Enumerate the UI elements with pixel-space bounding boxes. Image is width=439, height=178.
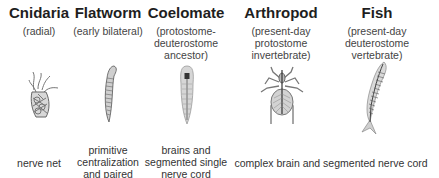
flatworm-icon [100, 64, 120, 126]
subtitle-line: (protostome- [154, 25, 218, 37]
subtitle-flatworm: (early bilateral) [73, 25, 142, 37]
arthropod-icon [259, 66, 305, 126]
fish-icon [350, 60, 392, 136]
label-line: nerve cord [145, 168, 227, 178]
subtitle-line: ancestor) [154, 49, 218, 61]
title-cnidaria: Cnidaria [9, 4, 69, 21]
subtitle-cnidaria: (radial) [23, 25, 56, 37]
label-line: and paired [77, 168, 139, 178]
subtitle-line: deuterostome [345, 37, 409, 49]
subtitle-line: (present-day [345, 25, 409, 37]
label-line: primitive [77, 144, 139, 156]
subtitle-fish: (present-day deuterostome vertebrate) [345, 25, 409, 61]
coelomate-icon [178, 64, 196, 126]
label-line: centralization [77, 156, 139, 168]
title-fish: Fish [362, 4, 393, 21]
subtitle-line: deuterostome [154, 37, 218, 49]
subtitle-line: protostome [252, 37, 311, 49]
subtitle-line: (early bilateral) [73, 25, 142, 37]
title-flatworm: Flatworm [75, 4, 142, 21]
label-coelomate-nervous: brains and segmented single nerve cord [145, 144, 227, 178]
subtitle-line: (radial) [23, 25, 56, 37]
label-flatworm-nervous: primitive centralization and paired [77, 144, 139, 178]
subtitle-line: (present-day [252, 25, 311, 37]
label-nerve-net: nerve net [17, 157, 61, 169]
cnidaria-icon [24, 70, 60, 120]
subtitle-arthropod: (present-day protostome invertebrate) [252, 25, 311, 61]
title-coelomate: Coelomate [148, 4, 225, 21]
label-line: nerve net [17, 157, 61, 169]
subtitle-coelomate: (protostome- deuterostome ancestor) [154, 25, 218, 61]
subtitle-line: invertebrate) [252, 49, 311, 61]
label-complex-brain: complex brain and segmented nerve cord [234, 157, 427, 169]
label-line: segmented single [145, 156, 227, 168]
title-arthropod: Arthropod [244, 4, 317, 21]
label-line: brains and [145, 144, 227, 156]
label-line: complex brain and segmented nerve cord [234, 157, 427, 169]
